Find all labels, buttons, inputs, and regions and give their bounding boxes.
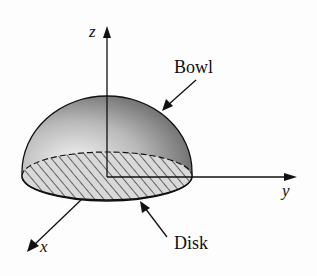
bowl-label: Bowl (174, 57, 213, 78)
disk-pointer (145, 208, 167, 237)
x-arrowhead (27, 239, 39, 252)
y-axis-label: y (282, 181, 290, 201)
z-arrowhead (103, 26, 111, 38)
x-axis-label: x (40, 237, 48, 257)
diagram-graphic (0, 0, 317, 276)
z-axis-label: z (89, 22, 96, 42)
bowl-disk-diagram: z y x Bowl Disk (0, 0, 317, 276)
bowl-pointer (168, 80, 196, 105)
y-arrowhead (284, 173, 297, 181)
disk-label: Disk (174, 233, 208, 254)
